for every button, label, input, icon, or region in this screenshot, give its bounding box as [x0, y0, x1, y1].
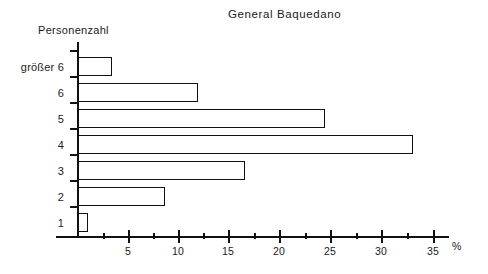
- bar-3: [78, 161, 245, 180]
- y-axis-label-groesser-6: größer 6: [21, 61, 64, 73]
- x-tick-major: [330, 230, 332, 243]
- bar-6: [78, 83, 198, 102]
- y-tick: [70, 206, 78, 208]
- x-axis-unit-label: %: [452, 240, 461, 252]
- y-axis-label-3: 3: [58, 165, 64, 177]
- x-tick-minor: [356, 233, 358, 239]
- y-tick: [70, 180, 78, 182]
- y-axis-label-2: 2: [58, 191, 64, 203]
- x-axis-label-25: 25: [318, 245, 342, 257]
- y-axis-label-1: 1: [58, 217, 64, 229]
- y-axis-label-4: 4: [58, 139, 64, 151]
- bar-groesser-6: [78, 57, 112, 76]
- x-tick-major: [381, 230, 383, 243]
- bar-2: [78, 187, 165, 206]
- x-axis-label-35: 35: [421, 245, 445, 257]
- x-tick-minor: [203, 233, 205, 239]
- x-tick-major: [178, 230, 180, 243]
- y-axis-label-5: 5: [58, 113, 64, 125]
- bar-4: [78, 135, 413, 154]
- x-axis-label-5: 5: [116, 245, 140, 257]
- bar-1: [78, 213, 88, 232]
- x-tick-minor: [153, 233, 155, 239]
- y-tick: [70, 76, 78, 78]
- x-axis-line: [56, 236, 449, 238]
- x-tick-minor: [254, 233, 256, 239]
- x-tick-major: [279, 230, 281, 243]
- x-tick-minor: [407, 233, 409, 239]
- x-axis-label-15: 15: [216, 245, 240, 257]
- y-tick: [70, 102, 78, 104]
- x-tick-major: [433, 230, 435, 243]
- x-tick-minor: [305, 233, 307, 239]
- y-axis-label-6: 6: [58, 87, 64, 99]
- bar-5: [78, 109, 325, 128]
- y-tick: [70, 128, 78, 130]
- x-axis-label-30: 30: [369, 245, 393, 257]
- x-tick-major: [228, 230, 230, 243]
- x-tick-minor: [103, 233, 105, 239]
- x-axis-label-20: 20: [267, 245, 291, 257]
- y-tick: [70, 154, 78, 156]
- x-axis-label-10: 10: [166, 245, 190, 257]
- x-tick-major: [128, 230, 130, 243]
- bar-chart: General Baquedano Personenzahl größer 6 …: [0, 0, 488, 274]
- plot-area: größer 6 6 5 4 3 2 1 5 10 15 20 25 30 35…: [0, 0, 488, 274]
- y-tick: [70, 50, 78, 52]
